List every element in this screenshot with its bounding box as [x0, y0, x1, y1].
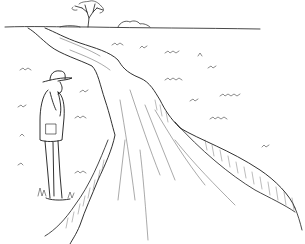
road-illustration	[0, 0, 305, 244]
man-figure	[38, 71, 74, 200]
hat-icon	[43, 71, 72, 82]
illustration-canvas	[0, 0, 305, 244]
horizon-tree-icon	[72, 1, 104, 27]
horizon-line	[5, 27, 260, 29]
distant-shrubs	[118, 21, 150, 27]
road-left-edge	[28, 28, 115, 244]
